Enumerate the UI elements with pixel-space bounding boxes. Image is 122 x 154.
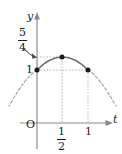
t-tick-half-numerator: 1 (58, 126, 65, 138)
t-tick-label-one: 1 (85, 126, 92, 137)
t-axis-arrow-icon (106, 120, 113, 126)
t-tick-half-denominator: 2 (58, 141, 65, 153)
point-t0 (35, 68, 40, 73)
t-tick-label-half: 1 2 (57, 126, 66, 152)
guide-lines-group (37, 57, 88, 123)
t-axis-label: t (113, 114, 117, 125)
point-t1 (86, 68, 91, 73)
vertex-value-denominator: 4 (19, 42, 26, 54)
origin-label: O (26, 119, 35, 130)
curve-dashed-right (88, 70, 116, 106)
y-axis-arrow-icon (34, 12, 40, 20)
vertex-value-numerator: 5 (19, 27, 26, 39)
point-vertex (60, 55, 65, 60)
y-axis-label: y (27, 11, 33, 22)
vertex-value-fraction-label: 5 4 (18, 27, 27, 53)
y-tick-label-one: 1 (26, 64, 33, 75)
annotation-arrow-head-icon (32, 53, 37, 58)
parabola-figure: y t O 5 4 1 1 2 1 (0, 0, 122, 154)
